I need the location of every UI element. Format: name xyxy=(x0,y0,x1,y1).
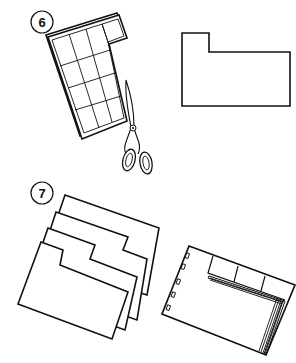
instruction-diagram: 6 xyxy=(0,0,296,363)
step-7-number: 7 xyxy=(38,186,45,201)
binding-holes xyxy=(166,253,190,311)
cut-tab-shape xyxy=(182,33,290,106)
staggered-dividers xyxy=(18,195,159,339)
step-6-number: 6 xyxy=(38,15,45,30)
grid-sheet-stack xyxy=(46,13,127,139)
step-6-badge: 6 xyxy=(31,11,53,33)
file-cover xyxy=(162,246,295,355)
step-6: 6 xyxy=(31,11,290,175)
step-7: 7 xyxy=(18,182,295,355)
step-7-badge: 7 xyxy=(31,182,53,204)
bound-tabbed-file xyxy=(162,246,295,355)
file-tabs xyxy=(208,256,285,300)
scissors-icon xyxy=(120,80,153,175)
